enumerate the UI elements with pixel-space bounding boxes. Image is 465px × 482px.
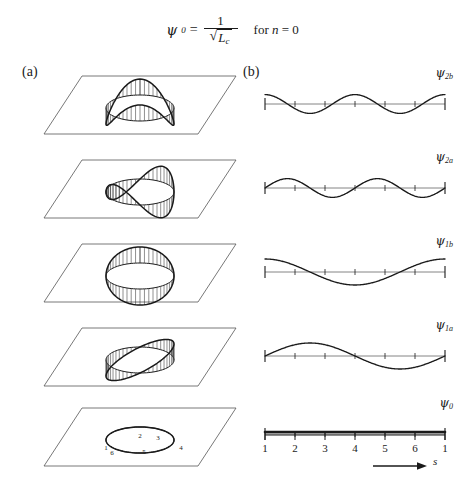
panel-label-a: (a) — [22, 64, 38, 80]
wave-label-4: ψ0 — [440, 396, 453, 411]
displacement-hatching-0 — [106, 79, 174, 125]
equation-lhs-symbol: ψ — [166, 22, 177, 38]
plane-svg-3 — [40, 320, 240, 400]
axis-tick-label-5: 6 — [412, 442, 418, 454]
condition-equals: = — [282, 22, 289, 37]
plane-panel-row-3 — [40, 320, 240, 400]
hexagon-vertex-label-6: 6 — [110, 449, 114, 457]
wave-label-sub-0: 2b — [445, 72, 453, 81]
axis-tick-label-6: 1 — [442, 442, 448, 454]
plane-panel-row-1 — [40, 152, 240, 232]
equation-display: ψ0 = 1 √Lc for n = 0 — [0, 14, 465, 46]
wave-curve-svg-0 — [255, 70, 455, 140]
axis-tick-label-1: 2 — [292, 442, 298, 454]
wave-label-1: ψ2a — [436, 150, 453, 165]
condition-value: 0 — [292, 22, 299, 37]
wave-label-sub-2: 1b — [445, 240, 453, 249]
figure-root: ψ0 = 1 √Lc for n = 0 (a) (b) 12 — [0, 0, 465, 482]
wave-curve-svg-3 — [255, 322, 455, 392]
wave-panel-row-2: ψ1b — [255, 238, 455, 308]
wave-panel-row-1: ψ2a — [255, 154, 455, 224]
equation-lhs-subscript: 0 — [181, 25, 186, 35]
displacement-hatching-1 — [106, 166, 173, 218]
axis-tick-label-2: 3 — [322, 442, 328, 454]
hexagon-vertex-label-2: 2 — [138, 432, 142, 440]
plane-svg-1 — [40, 152, 240, 232]
plane-svg-2 — [40, 236, 240, 316]
equation-fraction: 1 √Lc — [204, 14, 238, 46]
wave-label-3: ψ1a — [436, 318, 453, 333]
wave-label-symbol-1: ψ — [436, 150, 445, 164]
hexagon-vertex-label-5: 5 — [142, 448, 146, 456]
radicand-symbol: L — [218, 30, 225, 45]
wave-panel-row-0: ψ2b — [255, 70, 455, 140]
displaced-outline-4 — [106, 427, 174, 453]
displacement-hatching-3 — [106, 339, 174, 380]
hexagon-vertex-label-4: 4 — [179, 444, 183, 452]
axis-tick-label-4: 5 — [382, 442, 388, 454]
wave-curve-svg-2 — [255, 238, 455, 308]
plane-panel-row-2 — [40, 236, 240, 316]
fraction-denominator: √Lc — [207, 29, 235, 47]
axis-arrow-label: s — [433, 455, 437, 467]
s-direction-arrow-icon — [373, 458, 429, 476]
equation-row: ψ0 = 1 √Lc for n = 0 — [166, 14, 299, 46]
wave-label-symbol-0: ψ — [436, 66, 445, 80]
wave-label-symbol-4: ψ — [440, 396, 449, 410]
wave-label-symbol-3: ψ — [436, 318, 445, 332]
equation-equals: = — [190, 22, 198, 38]
plane-panel-row-0 — [40, 68, 240, 148]
s-axis: 1 2 3 4 5 6 1 s — [255, 432, 455, 476]
condition-text: for n = 0 — [254, 22, 299, 38]
wave-label-0: ψ2b — [436, 66, 453, 81]
hexagon-vertex-label-3: 3 — [156, 434, 160, 442]
ground-plane-1 — [44, 160, 236, 218]
plane-svg-4 — [40, 400, 240, 480]
condition-for: for — [254, 22, 269, 37]
condition-variable: n — [272, 22, 279, 37]
radical-sign: √ — [210, 29, 218, 47]
plane-panel-row-4: 123456 — [40, 400, 240, 480]
axis-tick-label-3: 4 — [352, 442, 358, 454]
fraction-numerator: 1 — [213, 14, 228, 28]
hexagon-vertex-label-1: 1 — [104, 444, 108, 452]
square-root-expression: √Lc — [210, 29, 232, 47]
wave-label-2: ψ1b — [436, 234, 453, 249]
plane-svg-0 — [40, 68, 240, 148]
axis-tick-label-0: 1 — [262, 442, 268, 454]
wave-label-symbol-2: ψ — [436, 234, 445, 248]
radicand-subscript: c — [226, 36, 230, 46]
radicand: Lc — [217, 29, 231, 47]
ground-plane-3 — [44, 328, 236, 386]
wave-label-sub-4: 0 — [449, 402, 453, 411]
wave-curve-svg-1 — [255, 154, 455, 224]
hexagon-ring-2 — [106, 263, 174, 289]
wave-label-sub-1: 2a — [445, 156, 453, 165]
wave-panel-row-3: ψ1a — [255, 322, 455, 392]
wave-label-sub-3: 1a — [445, 324, 453, 333]
